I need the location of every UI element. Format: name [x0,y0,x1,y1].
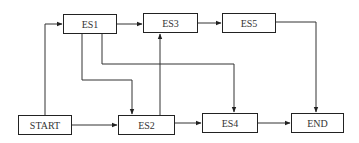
node-label: ES3 [162,18,179,29]
node-es2: ES2 [118,115,175,135]
node-end: END [291,113,344,133]
node-label: ES2 [138,120,155,131]
node-es1: ES1 [63,14,117,34]
node-start: START [18,115,72,135]
edge-es5-end [276,22,316,112]
edge-es1-es4 [102,34,234,112]
node-label: START [30,120,60,131]
node-label: ES4 [222,118,239,129]
node-label: ES1 [82,19,99,30]
node-label: ES5 [241,18,258,29]
node-es4: ES4 [202,113,258,133]
edge-start-es1 [45,24,62,115]
node-es5: ES5 [222,13,276,33]
node-label: END [307,118,328,129]
edge-es1-es2 [82,34,132,114]
node-es3: ES3 [143,13,198,33]
